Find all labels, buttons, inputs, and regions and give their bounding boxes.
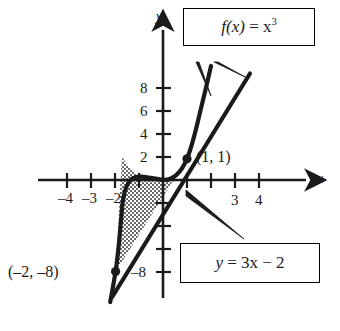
line-lhs: y [215, 253, 223, 272]
cubic-exponent: 3 [271, 16, 276, 27]
intersection-point-lower [111, 267, 120, 276]
intersection-point-upper [182, 154, 191, 163]
cubic-equation-text: f(x) = x3 [221, 17, 276, 37]
x-axis-label: x [317, 172, 323, 186]
y-tick-label-4: 4 [140, 127, 148, 142]
x-tick-label-4: 4 [255, 193, 263, 208]
line-equation-text: y = 3x − 2 [215, 253, 284, 273]
line-rhs: = 3x − 2 [227, 253, 284, 272]
x-tick-label-3: 3 [231, 193, 239, 208]
cubic-callout-leader-2 [214, 62, 247, 78]
x-tick-label-neg3: –3 [82, 191, 97, 206]
x-tick-label-neg2: –2 [106, 191, 121, 206]
y-tick-label-8: 8 [140, 81, 148, 96]
y-tick-label-neg8: –8 [131, 265, 146, 280]
y-axis-label: y [156, 10, 162, 24]
point-label-upper: (1, 1) [196, 149, 231, 165]
cubic-equation-callout: f(x) = x3 [183, 8, 315, 46]
x-tick-label-neg4: –4 [58, 191, 73, 206]
y-tick-label-6: 6 [140, 104, 148, 119]
cubic-fn-arg: (x) [226, 17, 245, 36]
line-equation-callout: y = 3x − 2 [180, 243, 320, 283]
cubic-eq-body: = x [249, 17, 271, 36]
y-tick-label-2: 2 [140, 150, 148, 165]
point-label-lower: (–2, –8) [8, 264, 59, 280]
